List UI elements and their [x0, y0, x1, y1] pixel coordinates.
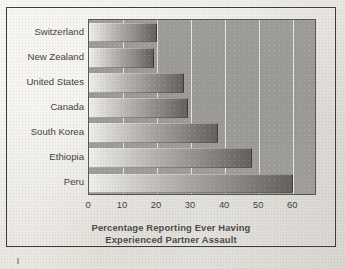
y-axis-label-ethiopia: Ethiopia: [4, 151, 88, 162]
x-tick-60: 60: [287, 199, 297, 210]
x-tick-0: 0: [85, 199, 90, 210]
x-tick-50: 50: [253, 199, 263, 210]
y-axis-label-new-zealand: New Zealand: [4, 51, 88, 62]
scan-artifact-mark: [17, 258, 19, 264]
bar-united-states: [89, 73, 184, 93]
bar-row: [89, 174, 315, 194]
bar-canada: [89, 98, 188, 118]
bar-south-korea: [89, 123, 218, 143]
plot-area: [88, 19, 316, 195]
x-axis-title: Percentage Reporting Ever Having Experie…: [6, 222, 336, 245]
y-axis-label-switzerland: Switzerland: [4, 26, 88, 37]
bar-row: [89, 23, 315, 43]
y-axis-label-canada: Canada: [4, 101, 88, 112]
bar-row: [89, 48, 315, 68]
bar-row: [89, 98, 315, 118]
bar-series: [89, 20, 315, 194]
x-tick-10: 10: [117, 199, 127, 210]
bar-row: [89, 123, 315, 143]
y-axis-label-united-states: United States: [4, 76, 88, 87]
x-tick-20: 20: [151, 199, 161, 210]
x-axis-title-line-1: Percentage Reporting Ever Having: [6, 222, 336, 234]
y-axis-label-peru: Peru: [4, 176, 88, 187]
x-axis-title-line-2: Experienced Partner Assault: [6, 234, 336, 246]
x-tick-40: 40: [219, 199, 229, 210]
bar-new-zealand: [89, 48, 154, 68]
bar-peru: [89, 174, 293, 194]
bar-ethiopia: [89, 148, 252, 168]
x-tick-30: 30: [185, 199, 195, 210]
bar-switzerland: [89, 23, 157, 43]
bar-row: [89, 148, 315, 168]
y-axis-label-south-korea: South Korea: [4, 126, 88, 137]
bar-row: [89, 73, 315, 93]
scanned-page: SwitzerlandNew ZealandUnited StatesCanad…: [0, 0, 345, 269]
